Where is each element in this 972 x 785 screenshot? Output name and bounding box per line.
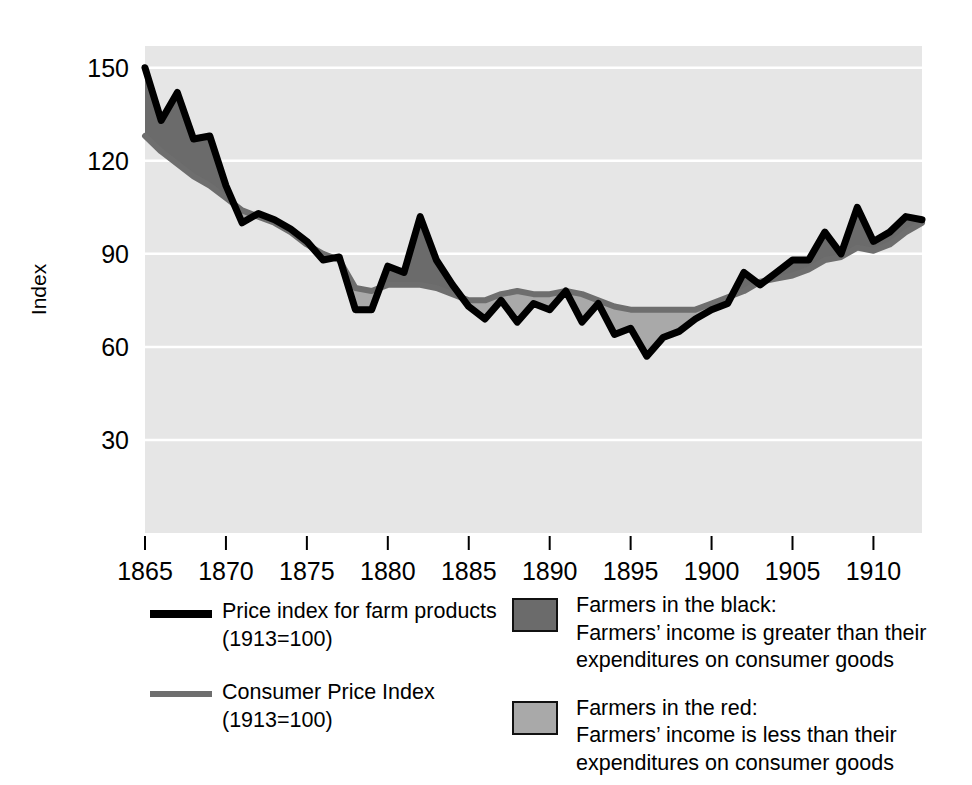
ytick-label-150: 150 <box>87 54 129 82</box>
legend-label-farmers-in-the-black: Farmers in the black: Farmers’ income is… <box>576 592 927 675</box>
farmers-in-the-red-swatch <box>512 701 558 735</box>
farm-products-line-swatch <box>150 610 212 618</box>
xtick-label-1885: 1885 <box>441 557 497 585</box>
xtick-label-1895: 1895 <box>603 557 659 585</box>
legend-column-fills: Farmers in the black: Farmers’ income is… <box>512 592 964 785</box>
legend-column-lines: Price index for farm products (1913=100)… <box>150 598 500 760</box>
figure-root: 3060901201501865187018751880188518901895… <box>0 0 972 785</box>
ytick-label-90: 90 <box>101 240 129 268</box>
xtick-label-1905: 1905 <box>765 557 821 585</box>
xtick-label-1880: 1880 <box>360 557 416 585</box>
xtick-label-1890: 1890 <box>522 557 578 585</box>
xtick-label-1865: 1865 <box>117 557 173 585</box>
legend-label-farm-products: Price index for farm products (1913=100) <box>222 598 497 653</box>
legend-marker-wrap <box>150 679 222 697</box>
xtick-label-1875: 1875 <box>279 557 335 585</box>
plot-background <box>145 46 922 533</box>
chart-plot: 3060901201501865187018751880188518901895… <box>0 0 972 590</box>
ytick-label-30: 30 <box>101 426 129 454</box>
y-axis-title: Index <box>27 263 50 315</box>
legend-item-consumer-price-index: Consumer Price Index (1913=100) <box>150 679 500 734</box>
ytick-label-120: 120 <box>87 147 129 175</box>
xtick-label-1900: 1900 <box>684 557 740 585</box>
ytick-label-60: 60 <box>101 333 129 361</box>
legend-item-farmers-in-the-red: Farmers in the red: Farmers’ income is l… <box>512 695 964 778</box>
xtick-label-1870: 1870 <box>198 557 254 585</box>
xtick-label-1910: 1910 <box>846 557 902 585</box>
legend-item-farm-products: Price index for farm products (1913=100) <box>150 598 500 653</box>
legend-marker-wrap <box>150 598 222 618</box>
legend-label-consumer-price-index: Consumer Price Index (1913=100) <box>222 679 435 734</box>
legend-marker-wrap <box>512 592 576 632</box>
chart-area: 3060901201501865187018751880188518901895… <box>0 0 972 590</box>
legend-marker-wrap <box>512 695 576 735</box>
legend-label-farmers-in-the-red: Farmers in the red: Farmers’ income is l… <box>576 695 897 778</box>
farmers-in-the-black-swatch <box>512 598 558 632</box>
consumer-price-index-line-swatch <box>150 691 212 697</box>
chart-legend: Price index for farm products (1913=100)… <box>0 588 972 785</box>
legend-item-farmers-in-the-black: Farmers in the black: Farmers’ income is… <box>512 592 964 675</box>
